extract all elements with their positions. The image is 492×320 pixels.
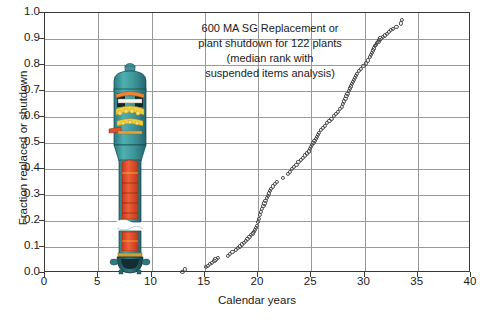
chart-figure: Fraction replaced or shutdown 0.00.10.20… — [0, 0, 492, 320]
data-point-marker — [215, 256, 219, 260]
data-point-marker — [394, 24, 398, 28]
data-point-marker — [256, 220, 260, 224]
x-axis-tick-label: 15 — [187, 276, 221, 288]
x-axis-tick-label: 20 — [240, 276, 274, 288]
x-axis-tick-labels: 0510152025303540 — [44, 276, 470, 292]
x-axis-label: Calendar years — [44, 294, 470, 306]
x-axis-tick-label: 40 — [453, 276, 487, 288]
data-points — [45, 13, 469, 271]
y-axis-tick-label: 0.8 — [6, 58, 40, 70]
y-axis-tick-label: 0.2 — [6, 214, 40, 226]
x-axis-tick-label: 25 — [293, 276, 327, 288]
data-point-marker — [182, 267, 186, 271]
y-axis-tick-label: 0.3 — [6, 188, 40, 200]
x-axis-tick-label: 10 — [134, 276, 168, 288]
data-point-marker — [399, 21, 403, 25]
y-axis-tick-label: 0.4 — [6, 162, 40, 174]
y-axis-tick-labels: 0.00.10.20.30.40.50.60.70.80.91.0 — [0, 12, 40, 272]
y-axis-tick-label: 0.7 — [6, 84, 40, 96]
plot-area: 600 MA SG Replacement or plant shutdown … — [44, 12, 470, 272]
data-point-marker — [400, 17, 404, 21]
x-axis-tick-label: 5 — [80, 276, 114, 288]
y-axis-tick-label: 0.5 — [6, 136, 40, 148]
x-axis-tick-label: 0 — [27, 276, 61, 288]
data-point-marker — [275, 180, 279, 184]
y-axis-tick-label: 0.1 — [6, 240, 40, 252]
y-axis-tick-label: 0.6 — [6, 110, 40, 122]
data-point-marker — [280, 176, 284, 180]
y-axis-tick-label: 0.9 — [6, 32, 40, 44]
x-axis-tick-label: 30 — [347, 276, 381, 288]
x-axis-tick-label: 35 — [400, 276, 434, 288]
y-axis-tick-label: 1.0 — [6, 6, 40, 18]
data-point-marker — [257, 217, 261, 221]
